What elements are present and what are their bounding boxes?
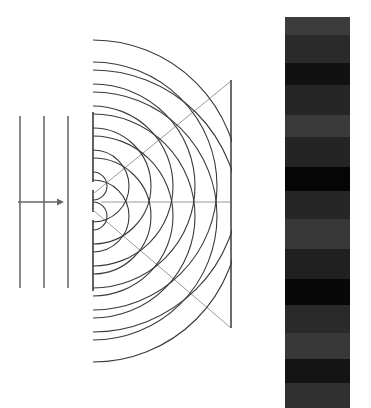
fringe-band (285, 85, 350, 115)
fringe-band (285, 333, 350, 359)
fringe-band (285, 167, 350, 191)
fringe-band (285, 359, 350, 383)
wave-arc (93, 92, 217, 340)
fringe-band (285, 219, 350, 249)
fringe-band (285, 305, 350, 333)
fringe-band (285, 35, 350, 63)
fringe-band (285, 191, 350, 219)
wave-arc (93, 172, 107, 200)
fringe-band (285, 115, 350, 137)
wave-arc (93, 62, 217, 310)
fringe-band (285, 17, 350, 35)
wave-arcs (93, 40, 239, 362)
interference-pattern (285, 17, 350, 388)
wave-arc (93, 136, 173, 296)
fringe-band (285, 137, 350, 167)
fringe-band (285, 63, 350, 85)
fringe-band (285, 383, 350, 408)
wave-arc (93, 106, 173, 266)
arrow-head-icon (57, 199, 64, 206)
fringe-band (285, 279, 350, 305)
fringe-band (285, 249, 350, 279)
double-slit-diagram (0, 0, 260, 407)
